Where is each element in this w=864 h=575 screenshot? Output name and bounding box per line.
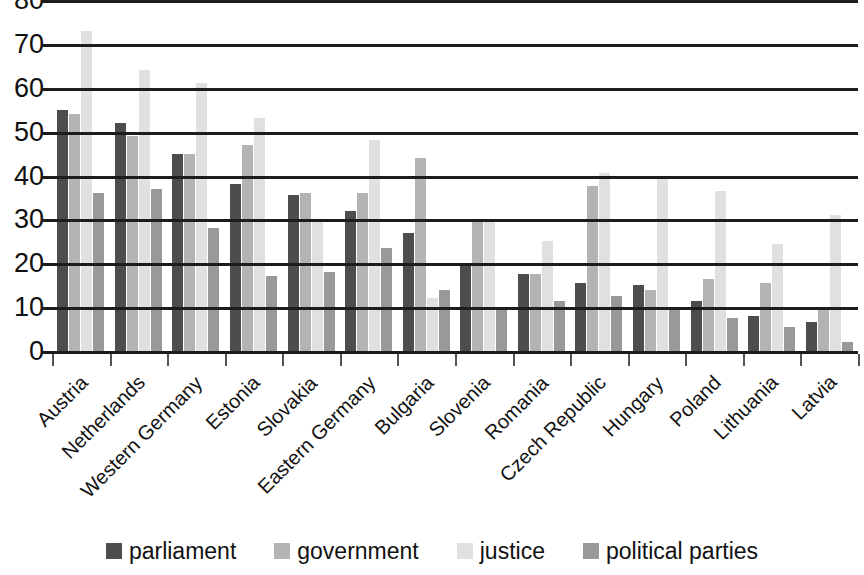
bar-justice — [542, 241, 553, 351]
bar-political-parties — [266, 276, 277, 351]
bar-parliament — [57, 110, 68, 351]
legend-item-government[interactable]: government — [274, 540, 418, 563]
x-tick-mark — [513, 354, 515, 366]
gridline — [52, 88, 858, 91]
bar-government — [357, 193, 368, 351]
y-tick-label: 80 — [14, 0, 44, 14]
bar-government — [300, 193, 311, 351]
gridline — [52, 307, 858, 310]
bar-parliament — [575, 283, 586, 351]
y-tick-label: 40 — [14, 163, 44, 190]
bar-government — [472, 219, 483, 351]
y-axis: 01020304050607080 — [0, 0, 52, 360]
bar-parliament — [345, 211, 356, 351]
y-tick-mark — [41, 88, 54, 91]
bar-political-parties — [496, 307, 507, 351]
bar-political-parties — [727, 318, 738, 351]
x-tick-mark — [225, 354, 227, 366]
x-tick-mark — [340, 354, 342, 366]
gridline — [52, 44, 858, 47]
y-tick-label: 30 — [14, 206, 44, 233]
x-axis-ticks — [52, 354, 858, 366]
bar-government — [69, 114, 80, 351]
legend-swatch-icon — [274, 543, 290, 559]
legend-swatch-icon — [583, 543, 599, 559]
bar-parliament — [806, 322, 817, 351]
bar-justice — [830, 215, 841, 351]
y-tick-label: 20 — [14, 250, 44, 277]
bar-justice — [81, 31, 92, 351]
bar-parliament — [403, 233, 414, 351]
x-tick-mark — [570, 354, 572, 366]
bar-parliament — [748, 316, 759, 351]
y-tick-mark — [41, 0, 54, 3]
bar-justice — [312, 219, 323, 351]
bar-political-parties — [669, 307, 680, 351]
bar-government — [530, 274, 541, 351]
x-axis-label: Czech Republic — [496, 372, 609, 485]
bar-government — [645, 290, 656, 351]
legend-label: government — [297, 540, 418, 563]
x-tick-mark — [800, 354, 802, 366]
bar-government — [587, 186, 598, 351]
x-axis-label: Hungary — [599, 372, 667, 440]
legend-item-political-parties[interactable]: political parties — [583, 540, 758, 563]
legend-item-justice[interactable]: justice — [457, 540, 545, 563]
x-tick-mark — [685, 354, 687, 366]
bar-political-parties — [93, 193, 104, 351]
plot-area — [52, 0, 858, 354]
y-tick-mark — [41, 307, 54, 310]
bar-parliament — [230, 184, 241, 351]
x-tick-mark — [282, 354, 284, 366]
y-tick-label: 50 — [14, 119, 44, 146]
bar-justice — [369, 140, 380, 351]
x-tick-mark — [858, 354, 860, 366]
bar-political-parties — [439, 290, 450, 351]
gridline — [52, 219, 858, 222]
y-tick-label: 10 — [14, 294, 44, 321]
legend-label: political parties — [606, 540, 758, 563]
bar-justice — [254, 118, 265, 351]
bar-government — [415, 158, 426, 351]
y-tick-label: 70 — [14, 31, 44, 58]
y-tick-mark — [41, 263, 54, 266]
bar-government — [760, 283, 771, 351]
gridline — [52, 176, 858, 179]
bar-justice — [484, 222, 495, 351]
bar-parliament — [115, 123, 126, 351]
bar-political-parties — [611, 296, 622, 351]
x-tick-mark — [743, 354, 745, 366]
legend-item-parliament[interactable]: parliament — [106, 540, 236, 563]
bar-justice — [715, 191, 726, 351]
bar-government — [127, 136, 138, 351]
bar-justice — [772, 244, 783, 351]
x-axis-labels: AustriaNetherlandsWestern GermanyEstonia… — [52, 366, 864, 516]
bar-political-parties — [324, 272, 335, 351]
bar-government — [818, 307, 829, 351]
y-tick-mark — [41, 219, 54, 222]
x-tick-mark — [110, 354, 112, 366]
y-tick-mark — [41, 132, 54, 135]
legend-label: justice — [480, 540, 545, 563]
y-tick-label: 60 — [14, 75, 44, 102]
bar-parliament — [633, 285, 644, 351]
x-tick-mark — [628, 354, 630, 366]
bar-government — [184, 154, 195, 351]
bar-chart: 01020304050607080 AustriaNetherlandsWest… — [0, 0, 864, 575]
y-tick-mark — [41, 44, 54, 47]
bar-political-parties — [208, 228, 219, 351]
bar-government — [703, 279, 714, 351]
gridline — [52, 263, 858, 266]
x-tick-mark — [455, 354, 457, 366]
gridline — [52, 132, 858, 135]
bar-parliament — [518, 274, 529, 351]
y-tick-mark — [41, 176, 54, 179]
x-tick-mark — [397, 354, 399, 366]
bar-parliament — [172, 154, 183, 351]
gridline — [52, 0, 858, 3]
x-axis-label: Latvia — [788, 372, 840, 424]
bar-political-parties — [151, 189, 162, 351]
x-tick-mark — [52, 354, 54, 366]
legend-swatch-icon — [457, 543, 473, 559]
bar-justice — [196, 83, 207, 351]
